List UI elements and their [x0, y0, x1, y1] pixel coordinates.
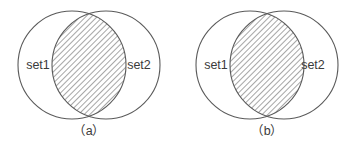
panel-caption-b: （b） [178, 120, 356, 139]
set1-label-b: set1 [204, 58, 228, 72]
set2-label-b: set2 [301, 58, 325, 72]
venn-panel-b: set1 set2 （b） [178, 0, 356, 151]
venn-panel-a: set1 set2 （a） [0, 0, 178, 151]
set2-label-a: set2 [127, 58, 151, 72]
venn-diagram-figure: set1 set2 （a） set1 [0, 0, 356, 151]
panel-caption-a: （a） [0, 120, 178, 139]
set1-label-a: set1 [26, 58, 50, 72]
